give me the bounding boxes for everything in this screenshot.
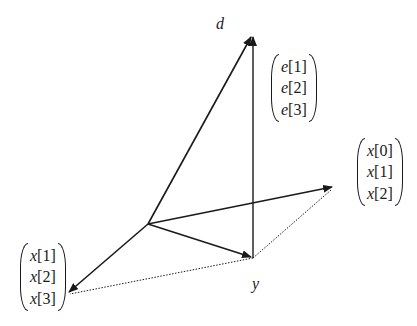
left-paren — [357, 138, 365, 206]
vector-x-left: x[1] x[2] x[3] — [20, 243, 66, 311]
label-d: d — [216, 16, 224, 32]
vector-entry: e[2] — [281, 77, 307, 98]
right-paren — [58, 243, 66, 311]
vector-e: e[1] e[2] e[3] — [271, 54, 317, 122]
vector-entries: x[1] x[2] x[3] — [28, 243, 58, 311]
vector-entry: x[1] — [30, 245, 56, 266]
arrow-origin-to-lower-left — [69, 224, 148, 292]
arrow-origin-to-x — [148, 187, 332, 224]
vector-entry: e[1] — [281, 56, 307, 77]
vector-entries: e[1] e[2] e[3] — [279, 54, 309, 122]
vector-entry: x[0] — [367, 140, 393, 161]
dotted-y-to-lower-left — [70, 258, 253, 294]
right-paren — [395, 138, 403, 206]
vector-entry: x[2] — [30, 266, 56, 287]
vector-entry: x[1] — [367, 161, 393, 182]
left-paren — [20, 243, 28, 311]
left-paren — [271, 54, 279, 122]
label-y: y — [252, 276, 259, 292]
diagram-canvas: d y e[1] e[2] e[3] x[0] x[1] x[2] x[1] x… — [0, 0, 417, 326]
vector-entry: x[2] — [367, 183, 393, 204]
vector-x-right: x[0] x[1] x[2] — [357, 138, 403, 206]
vector-entry: x[3] — [30, 288, 56, 309]
arrow-origin-to-y — [148, 224, 251, 257]
vector-entry: e[3] — [281, 99, 307, 120]
arrow-origin-to-d — [148, 37, 251, 224]
vector-entries: x[0] x[1] x[2] — [365, 138, 395, 206]
right-paren — [309, 54, 317, 122]
